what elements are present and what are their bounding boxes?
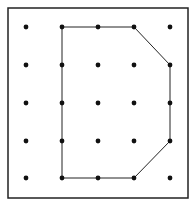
peg-dot: [132, 139, 137, 144]
peg-dot: [60, 101, 65, 106]
peg-dot: [60, 63, 65, 68]
peg-dot: [168, 101, 173, 106]
geoboard-diagram: [0, 0, 194, 205]
peg-dot: [96, 139, 101, 144]
peg-grid: [24, 25, 173, 181]
peg-dot: [24, 101, 29, 106]
peg-dot: [168, 63, 173, 68]
peg-dot: [132, 101, 137, 106]
peg-dot: [24, 25, 29, 30]
peg-dot: [132, 176, 137, 181]
peg-dot: [60, 139, 65, 144]
peg-dot: [168, 25, 173, 30]
peg-dot: [60, 176, 65, 181]
peg-dot: [96, 176, 101, 181]
peg-dot: [60, 25, 65, 30]
peg-dot: [168, 176, 173, 181]
peg-dot: [168, 139, 173, 144]
peg-dot: [132, 63, 137, 68]
peg-dot: [96, 101, 101, 106]
peg-dot: [132, 25, 137, 30]
peg-dot: [24, 139, 29, 144]
d-shaped-polygon: [62, 27, 170, 178]
peg-dot: [24, 63, 29, 68]
peg-dot: [96, 63, 101, 68]
peg-dot: [24, 176, 29, 181]
peg-dot: [96, 25, 101, 30]
